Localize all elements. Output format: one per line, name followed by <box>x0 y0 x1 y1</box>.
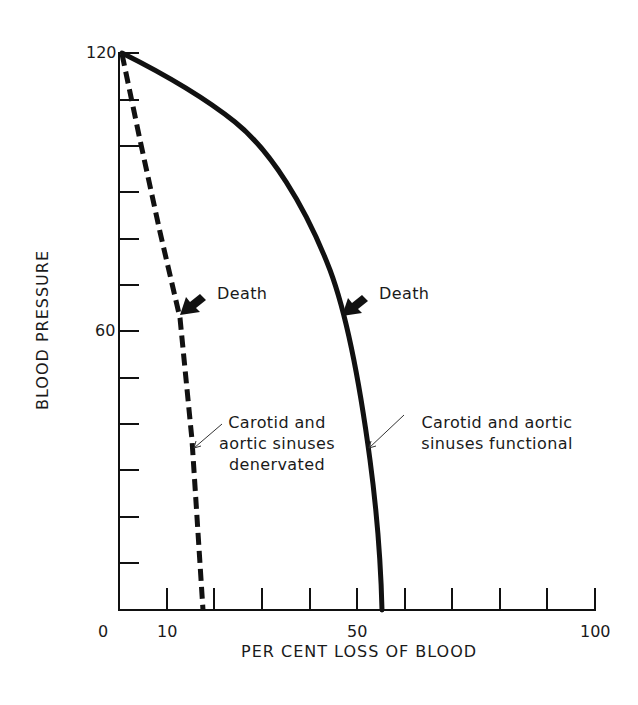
annotation-denervated-line2: aortic sinuses <box>212 433 342 454</box>
axes <box>118 52 596 611</box>
y-tick-label-120: 120 <box>86 43 117 62</box>
series-functional-line <box>122 53 382 610</box>
annotation-functional: Carotid and aortic sinuses functional <box>404 412 590 454</box>
annotation-denervated: Carotid and aortic sinuses denervated <box>212 412 342 475</box>
y-tick-label-60: 60 <box>95 321 115 340</box>
annotation-functional-line2: sinuses functional <box>404 433 590 454</box>
x-axis-label: PER CENT LOSS OF BLOOD <box>241 642 477 661</box>
chart-canvas <box>0 0 638 705</box>
annotation-death-denervated: Death <box>217 283 267 304</box>
annotation-functional-line1: Carotid and aortic <box>404 412 590 433</box>
annotation-denervated-line1: Carotid and <box>212 412 342 433</box>
x-tick-label-10: 10 <box>157 622 177 641</box>
x-tick-label-0: 0 <box>98 622 108 641</box>
annotation-denervated-line3: denervated <box>212 454 342 475</box>
death-arrow-icon-denervated <box>180 294 206 315</box>
death-arrow-icon-functional <box>342 295 368 316</box>
annotation-death-functional: Death <box>379 283 429 304</box>
x-tick-label-100: 100 <box>580 622 611 641</box>
x-tick-label-50: 50 <box>347 622 367 641</box>
y-axis-label: BLOOD PRESSURE <box>33 250 52 410</box>
